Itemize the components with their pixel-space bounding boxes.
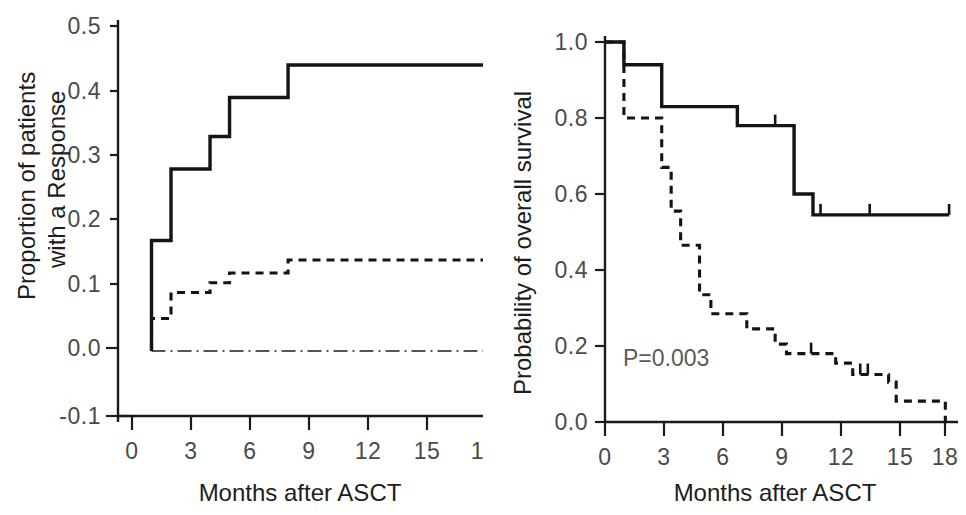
right-xtick-label-0: 0 xyxy=(598,444,611,470)
left-xtick-label-1: 3 xyxy=(184,438,197,464)
right-p-value-label: P=0.003 xyxy=(623,345,709,371)
right-xtick-label-2: 6 xyxy=(716,444,729,470)
left-response-dashed-curve xyxy=(152,260,483,351)
right-xtick-label-1: 3 xyxy=(657,444,670,470)
right-censor-marks xyxy=(775,115,949,375)
right-ytick-label-3: 0.4 xyxy=(555,257,588,283)
right-x-ticks xyxy=(605,422,945,436)
right-chart-svg: 1.0 0.8 0.6 0.4 0.2 0.0 0 3 6 9 12 15 xyxy=(483,0,966,515)
left-ytick-label-6: -0.1 xyxy=(59,403,101,429)
left-chart-panel: 0.5 0.4 0.3 0.2 0.1 0.0 -0.1 0 3 6 9 12 xyxy=(0,0,483,515)
right-ytick-label-1: 0.8 xyxy=(555,105,588,131)
left-xtick-label-3: 9 xyxy=(302,438,315,464)
right-ytick-label-2: 0.6 xyxy=(555,181,588,207)
right-y-ticks xyxy=(595,42,605,422)
left-xtick-label-5: 15 xyxy=(414,438,441,464)
left-ytick-label-4: 0.1 xyxy=(68,271,101,297)
right-ytick-label-4: 0.2 xyxy=(555,333,588,359)
right-survival-solid-curve xyxy=(605,42,949,215)
right-chart-panel: 1.0 0.8 0.6 0.4 0.2 0.0 0 3 6 9 12 15 xyxy=(483,0,966,515)
left-y-axis-title-line2: with a Response xyxy=(43,91,70,269)
left-ytick-label-1: 0.4 xyxy=(68,78,101,104)
left-ytick-label-0: 0.5 xyxy=(68,13,101,39)
left-y-axis-title-line1: Proportion of patients xyxy=(13,72,40,300)
right-xtick-label-6: 18 xyxy=(932,444,959,470)
left-response-solid-curve xyxy=(152,65,483,351)
left-xtick-label-6: 18 xyxy=(471,438,483,464)
right-xtick-label-4: 12 xyxy=(828,444,855,470)
left-ytick-label-5: 0.0 xyxy=(68,335,101,361)
left-x-axis-title: Months after ASCT xyxy=(199,479,402,506)
left-xtick-label-0: 0 xyxy=(125,438,138,464)
right-xtick-label-3: 9 xyxy=(775,444,788,470)
right-xtick-label-5: 15 xyxy=(887,444,914,470)
right-ytick-label-0: 1.0 xyxy=(555,29,588,55)
left-ytick-label-3: 0.2 xyxy=(68,206,101,232)
right-y-axis-title: Probability of overall survival xyxy=(509,91,536,395)
left-x-ticks xyxy=(132,416,483,430)
right-x-axis-title: Months after ASCT xyxy=(674,479,877,506)
left-chart-svg: 0.5 0.4 0.3 0.2 0.1 0.0 -0.1 0 3 6 9 12 xyxy=(0,0,483,515)
left-xtick-label-2: 6 xyxy=(243,438,256,464)
left-ytick-label-2: 0.3 xyxy=(68,142,101,168)
right-ytick-label-5: 0.0 xyxy=(555,409,588,435)
figure-container: 0.5 0.4 0.3 0.2 0.1 0.0 -0.1 0 3 6 9 12 xyxy=(0,0,966,515)
left-xtick-label-4: 12 xyxy=(355,438,382,464)
